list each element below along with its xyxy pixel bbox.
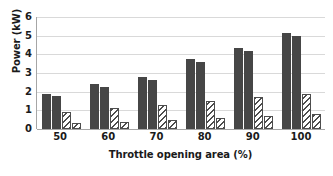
bar-group-70 xyxy=(133,17,181,129)
bar-series-3-100 xyxy=(302,94,311,129)
bar-series-2-80 xyxy=(196,62,205,129)
bar-series-1-100 xyxy=(282,33,291,129)
bar-series-1-70 xyxy=(138,77,147,129)
bar-series-4-100 xyxy=(312,114,321,129)
x-tick-label-70: 70 xyxy=(132,131,180,146)
x-tick-label-90: 90 xyxy=(229,131,277,146)
y-axis-tick-labels: 0123456 xyxy=(16,0,32,176)
bar-group-90 xyxy=(229,17,277,129)
x-tick-label-100: 100 xyxy=(277,131,325,146)
bar-series-4-50 xyxy=(72,123,81,129)
bar-series-4-60 xyxy=(120,122,129,129)
x-axis-title: Throttle opening area (%) xyxy=(36,149,325,160)
y-tick-label: 6 xyxy=(18,12,32,22)
bar-series-3-50 xyxy=(62,112,71,129)
bar-chart: Power (kW) 0123456 5060708090100 Throttl… xyxy=(0,0,333,176)
bar-series-4-70 xyxy=(168,120,177,129)
bar-series-3-90 xyxy=(254,97,263,129)
y-tick-label: 2 xyxy=(18,87,32,97)
bar-series-1-90 xyxy=(234,48,243,129)
bar-series-1-50 xyxy=(42,94,51,129)
y-tick-label: 1 xyxy=(18,105,32,115)
bar-series-3-60 xyxy=(110,108,119,129)
bar-series-4-80 xyxy=(216,118,225,129)
bar-series-2-100 xyxy=(292,36,301,129)
x-axis-tick-labels: 5060708090100 xyxy=(36,131,325,146)
bar-groups xyxy=(37,17,325,129)
bar-series-2-50 xyxy=(52,96,61,129)
bar-group-50 xyxy=(37,17,85,129)
x-tick-label-50: 50 xyxy=(36,131,84,146)
bar-series-2-60 xyxy=(100,87,109,129)
axis-baseline xyxy=(37,129,325,130)
y-tick-label: 4 xyxy=(18,49,32,59)
bar-group-100 xyxy=(277,17,325,129)
bar-series-1-60 xyxy=(90,84,99,129)
bar-series-2-90 xyxy=(244,51,253,129)
bar-group-60 xyxy=(85,17,133,129)
bar-series-3-80 xyxy=(206,101,215,129)
bar-series-1-80 xyxy=(186,59,195,129)
bar-series-2-70 xyxy=(148,80,157,129)
bar-group-80 xyxy=(181,17,229,129)
x-tick-label-80: 80 xyxy=(181,131,229,146)
bar-series-3-70 xyxy=(158,105,167,129)
y-tick-label: 3 xyxy=(18,68,32,78)
x-tick-label-60: 60 xyxy=(84,131,132,146)
y-tick-label: 0 xyxy=(18,124,32,134)
plot-area xyxy=(36,17,325,129)
y-tick-label: 5 xyxy=(18,31,32,41)
bar-series-4-90 xyxy=(264,116,273,129)
